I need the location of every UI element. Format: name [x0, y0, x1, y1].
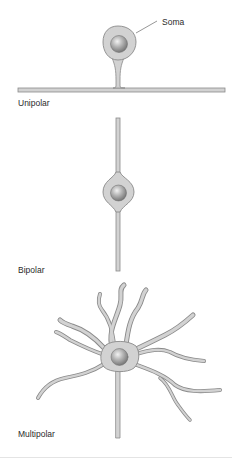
unipolar-stalk	[112, 58, 125, 88]
multipolar-label: Multipolar	[18, 430, 55, 439]
bipolar-dendrite	[116, 118, 120, 174]
unipolar-nucleus	[111, 36, 128, 53]
unipolar-neuron	[18, 21, 225, 92]
neuron-types-figure: Soma Unipolar Bipolar Multipolar	[0, 0, 236, 459]
bipolar-neuron	[103, 118, 134, 271]
bottom-divider	[0, 457, 232, 458]
multipolar-nucleus	[111, 349, 128, 366]
multipolar-axon	[116, 368, 120, 438]
bipolar-axon	[116, 208, 120, 271]
bipolar-nucleus	[111, 185, 127, 201]
neuron-diagram-svg	[0, 0, 236, 459]
unipolar-axon	[18, 88, 225, 92]
multipolar-neuron	[38, 285, 220, 438]
bipolar-label: Bipolar	[18, 266, 44, 275]
soma-leader-line	[136, 21, 157, 33]
unipolar-label: Unipolar	[18, 99, 50, 108]
soma-annotation-label: Soma	[162, 18, 184, 27]
